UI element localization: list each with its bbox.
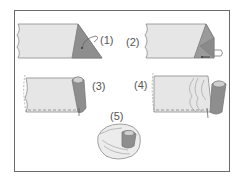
- folding-diagram: (1) (2) (3) (4) (5): [0, 0, 240, 182]
- step-2-illustration: [145, 24, 223, 58]
- step-1-label: (1): [100, 34, 113, 46]
- step-3-illustration: [24, 75, 86, 116]
- step-4-label: (4): [134, 79, 147, 91]
- step-3-label: (3): [92, 80, 105, 92]
- step-4-illustration: [152, 73, 226, 118]
- step-5-label: (5): [110, 110, 123, 122]
- step-1-illustration: [17, 24, 102, 58]
- step-2-label: (2): [126, 36, 139, 48]
- step-5-illustration: [98, 124, 141, 159]
